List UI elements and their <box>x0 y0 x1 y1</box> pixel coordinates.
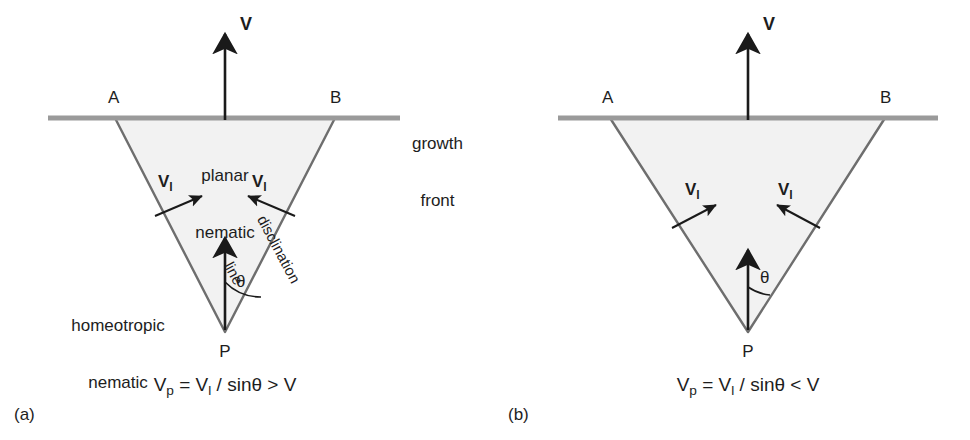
panel-b-vl-right-base: V <box>778 180 789 199</box>
panel-a-homeotropic-line2: nematic <box>71 373 165 392</box>
panel-a-homeotropic-line1: homeotropic <box>71 316 165 335</box>
panel-a-vertex-a-label: A <box>108 88 119 107</box>
panel-b-vl-left-subscript: l <box>696 188 699 202</box>
panel-b-vertex-b-label: B <box>880 88 891 107</box>
panel-a-apex-label: P <box>219 342 230 361</box>
panel-b-vl-left-base: V <box>685 180 696 199</box>
panel-a-disclination-line1: disclination <box>254 212 304 286</box>
panel-a-vl-right-subscript: l <box>263 180 266 194</box>
panel-b-vertex-a-label: A <box>602 88 613 107</box>
panel-b-formula: Vp = Vl / sinθ < V <box>677 374 820 398</box>
panel-a-vertex-b-label: B <box>330 88 341 107</box>
panel-b-formula-lhs: V <box>677 374 690 395</box>
panel-a-velocity-label: V <box>240 14 252 34</box>
panel-a-angle-label: θ <box>236 272 245 291</box>
panel-b-graphics <box>558 34 938 332</box>
panel-a-homeotropic-nematic-label: homeotropic nematic <box>71 278 165 430</box>
panel-b-angle-label: θ <box>760 268 769 287</box>
growth-front-line2: front <box>412 191 463 210</box>
panel-a-vl-right-base: V <box>252 172 263 191</box>
panel-a-formula-divider: / sin <box>211 374 251 395</box>
panel-b-formula-angle: θ <box>774 374 785 395</box>
panel-a-formula: Vp = Vl / sinθ > V <box>154 374 297 398</box>
panel-b-apex-label: P <box>742 342 753 361</box>
panel-a-vl-left-subscript: l <box>169 180 172 194</box>
panel-a-formula-numerator: V <box>196 374 209 395</box>
panel-b-formula-numerator: V <box>719 374 732 395</box>
panel-a-formula-comparison: > <box>262 374 284 395</box>
growth-front-line1: growth <box>412 134 463 153</box>
panel-a-formula-rhs: V <box>284 374 297 395</box>
panel-a-vl-right-label: Vl <box>252 172 267 194</box>
panel-a-vl-left-base: V <box>158 172 169 191</box>
panel-a-formula-equals: = <box>174 374 196 395</box>
panel-b-velocity-label: V <box>763 14 775 34</box>
panel-b-vl-right-subscript: l <box>789 188 792 202</box>
panel-a-planar-nematic-line1: planar <box>195 166 255 185</box>
panel-a-vl-left-label: Vl <box>158 172 173 194</box>
panel-a-caption: (a) <box>14 405 35 424</box>
panel-b-vl-right-label: Vl <box>778 180 793 202</box>
figure-container: V A B planar nematic Vl Vl disclination … <box>0 0 970 440</box>
panel-a-disclination-line2: line <box>209 236 259 310</box>
panel-b-formula-equals: = <box>697 374 719 395</box>
growth-front-label: growth front <box>412 96 463 248</box>
panel-b-formula-divider: / sin <box>734 374 774 395</box>
panel-b-caption: (b) <box>508 405 529 424</box>
panel-b-formula-rhs: V <box>807 374 820 395</box>
panel-b-formula-comparison: < <box>785 374 807 395</box>
panel-a-formula-angle: θ <box>251 374 262 395</box>
panel-b-vl-left-label: Vl <box>685 180 700 202</box>
panel-a-formula-lhs: V <box>154 374 167 395</box>
